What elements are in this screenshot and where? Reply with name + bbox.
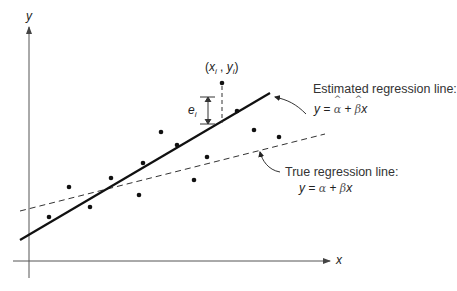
true-line-title: True regression line:	[285, 165, 398, 179]
true-callout-arrow	[260, 152, 280, 172]
x-axis-label: x	[336, 253, 342, 267]
residual-label: ei	[188, 103, 196, 119]
estimated-line-equation: y = α + βx	[314, 102, 367, 116]
residual-bracket	[200, 97, 215, 124]
estimated-callout-arrow	[275, 97, 306, 114]
data-points	[47, 81, 282, 220]
y-axis-label: y	[26, 9, 32, 23]
point-label: (xi , yi)	[205, 60, 239, 76]
true-regression-line	[20, 134, 325, 211]
estimated-regression-line	[20, 93, 270, 240]
highlighted-point	[220, 81, 225, 86]
true-line-equation: y = α + βx	[299, 181, 352, 195]
